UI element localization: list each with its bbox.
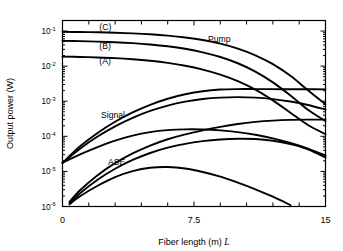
y-axis-tick-labels: 10-110-210-310-410-510-6: [41, 26, 55, 212]
x-axis-tick-labels: 07.515: [60, 215, 331, 225]
y-tick-label: 10-3: [41, 96, 55, 106]
x-tick-label: 15: [320, 215, 330, 225]
curve-pump-a: [63, 57, 326, 135]
x-axis-title: Fiber length (m) L: [158, 237, 229, 247]
curve-label-b: (B): [99, 41, 111, 51]
x-tick-label: 0: [60, 215, 65, 225]
curve-annotations: (C)(B)(A)PumpSignalASE: [99, 22, 230, 166]
y-tick-label: 10-6: [41, 201, 55, 211]
curve-ase-a: [70, 167, 291, 205]
curve-label-pump: Pump: [208, 34, 231, 44]
chart-figure: 10-110-210-310-410-510-6 07.515 (C)(B)(A…: [0, 0, 343, 251]
y-tick-label: 10-4: [41, 131, 55, 141]
y-axis-title: Output power (W): [5, 78, 15, 149]
curve-label-ase: ASE: [108, 157, 125, 167]
y-tick-label: 10-1: [41, 26, 55, 36]
y-tick-label: 10-5: [41, 166, 55, 176]
y-tick-label: 10-2: [41, 61, 55, 71]
chart-canvas: 10-110-210-310-410-510-6 07.515 (C)(B)(A…: [0, 0, 343, 251]
x-axis-title-text: Fiber length (m) L: [158, 237, 229, 247]
x-tick-label: 7.5: [188, 215, 201, 225]
curve-label-a: (A): [99, 56, 111, 66]
curve-label-c: (C): [99, 22, 111, 32]
curve-label-signal: Signal: [101, 110, 125, 120]
